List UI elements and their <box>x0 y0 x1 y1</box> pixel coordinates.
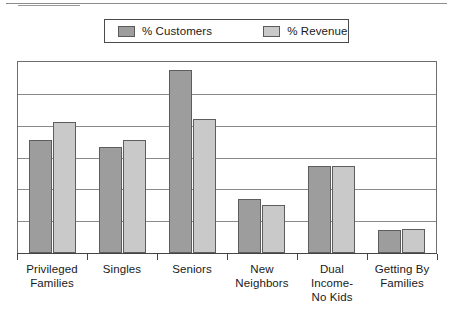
bar-group <box>227 62 297 253</box>
x-axis-label: Getting ByFamilies <box>367 262 437 304</box>
legend-swatch-revenue <box>263 26 280 37</box>
bar-group <box>88 62 158 253</box>
top-divider-rule <box>6 3 447 4</box>
bar[interactable] <box>262 205 285 253</box>
legend-entry-revenue: % Revenue <box>263 20 347 42</box>
bar-group <box>366 62 436 253</box>
chart-plot-area <box>17 61 437 254</box>
x-axis-tick <box>227 254 228 260</box>
x-axis-label: PrivilegedFamilies <box>17 262 87 304</box>
bar[interactable] <box>308 166 331 253</box>
legend-entry-customers: % Customers <box>118 20 212 42</box>
x-axis-tick <box>367 254 368 260</box>
bar[interactable] <box>53 122 76 253</box>
chart-legend: % Customers % Revenue <box>104 19 349 43</box>
bar[interactable] <box>99 147 122 253</box>
bar-group <box>18 62 88 253</box>
x-axis-tick <box>87 254 88 260</box>
bar[interactable] <box>123 140 146 253</box>
bar[interactable] <box>332 166 355 253</box>
x-axis-label: Singles <box>87 262 157 304</box>
x-axis-label: Seniors <box>157 262 227 304</box>
x-axis-label: NewNeighbors <box>227 262 297 304</box>
legend-swatch-customers <box>118 26 135 37</box>
bar-group <box>297 62 367 253</box>
chart-bars-layer <box>18 62 436 253</box>
legend-label-customers: % Customers <box>142 25 212 37</box>
bar[interactable] <box>29 140 52 253</box>
legend-label-revenue: % Revenue <box>287 25 347 37</box>
x-axis-tick <box>297 254 298 260</box>
bar[interactable] <box>402 229 425 253</box>
x-axis-ticks <box>17 254 437 260</box>
bar[interactable] <box>378 230 401 253</box>
bar[interactable] <box>238 199 261 253</box>
bar[interactable] <box>193 119 216 253</box>
x-axis-tick <box>17 254 18 260</box>
top-divider-rule-secondary <box>18 5 80 6</box>
x-axis-tick <box>157 254 158 260</box>
x-axis-labels: PrivilegedFamiliesSinglesSeniorsNewNeigh… <box>17 262 437 304</box>
x-axis-label: DualIncome-No Kids <box>297 262 367 304</box>
bar[interactable] <box>169 70 192 253</box>
bar-group <box>157 62 227 253</box>
x-axis-tick <box>437 254 438 260</box>
